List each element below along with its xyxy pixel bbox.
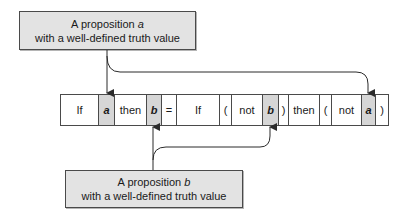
arrow-b-second	[153, 127, 270, 160]
connector-arrows	[0, 0, 406, 221]
arrow-a-last	[107, 56, 368, 93]
